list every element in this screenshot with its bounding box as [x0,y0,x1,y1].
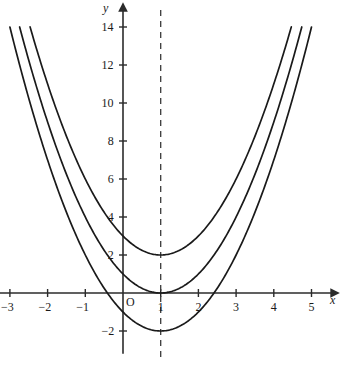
y-tick-label: −2 [102,325,115,337]
x-tick-label: 4 [271,301,277,313]
x-tick-label: 2 [195,301,201,313]
x-tick-label: −1 [76,301,89,313]
y-tick-label: 12 [102,59,114,71]
y-tick-label: 2 [108,249,114,261]
y-axis-label: y [103,2,108,14]
y-tick-label: 8 [108,135,114,147]
x-tick-label: −3 [1,301,14,313]
y-tick-label: 6 [108,173,114,185]
x-tick-label: −2 [39,301,52,313]
y-tick-label: 14 [102,21,114,33]
y-tick-label: 10 [102,97,114,109]
x-tick-label: 3 [233,301,239,313]
origin-label: O [126,296,135,308]
parabola-family-figure: −3−2−112345−22468101214 y x O [0,0,343,368]
x-axis-label: x [330,294,335,306]
x-tick-label: 5 [309,301,315,313]
plot-canvas [0,0,343,368]
x-tick-label: 1 [158,301,164,313]
y-tick-label: 4 [108,211,114,223]
